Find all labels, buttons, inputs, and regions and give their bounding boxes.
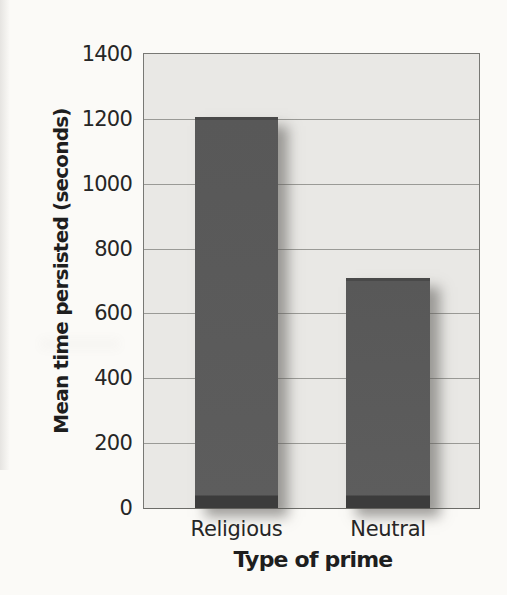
bars: ReligiousNeutral (144, 54, 479, 508)
y-tick-label: 800 (94, 236, 132, 260)
x-tick-label: Neutral (350, 517, 425, 541)
x-axis-title: Type of prime (234, 547, 393, 572)
plot-area: ReligiousNeutral (143, 53, 480, 509)
y-axis-tick-labels: 0200400600800100012001400 (0, 54, 137, 508)
y-tick-label: 1400 (82, 42, 132, 66)
y-tick-label: 1000 (82, 171, 132, 195)
y-tick-label: 200 (94, 431, 132, 455)
y-tick-label: 0 (119, 496, 132, 520)
x-tick-label: Religious (191, 517, 283, 541)
bar-group-religious: Religious (195, 54, 278, 508)
bar-chart-figure: Mean time persisted (seconds) 0200400600… (0, 0, 507, 595)
y-tick-label: 1200 (82, 106, 132, 130)
y-tick-label: 600 (94, 301, 132, 325)
y-tick-label: 400 (94, 366, 132, 390)
bar-religious (195, 117, 278, 508)
bar-neutral (346, 278, 430, 508)
bar-group-neutral: Neutral (346, 54, 430, 508)
